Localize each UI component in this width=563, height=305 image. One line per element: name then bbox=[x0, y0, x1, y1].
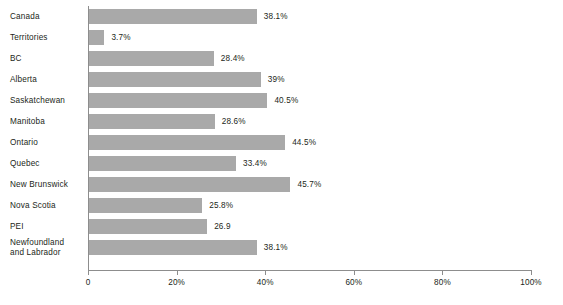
bar-row: Canada38.1% bbox=[0, 6, 563, 27]
x-axis-tick-label: 60% bbox=[345, 278, 362, 287]
bar-row: BC28.4% bbox=[0, 48, 563, 69]
bar bbox=[88, 156, 236, 171]
bar-track: 38.1% bbox=[88, 6, 531, 27]
bar-track: 26.9 bbox=[88, 216, 531, 237]
bar-row: Newfoundland and Labrador38.1% bbox=[0, 237, 563, 258]
bar-row: Nova Scotia25.8% bbox=[0, 195, 563, 216]
x-axis-tick-label: 80% bbox=[434, 278, 451, 287]
category-label: Nova Scotia bbox=[10, 201, 86, 211]
bar-row: PEI26.9 bbox=[0, 216, 563, 237]
bar-row: Territories3.7% bbox=[0, 27, 563, 48]
category-label: Ontario bbox=[10, 138, 86, 148]
bar bbox=[88, 30, 104, 45]
x-axis-tick-label: 40% bbox=[257, 278, 274, 287]
x-axis-tick bbox=[442, 270, 443, 275]
bar bbox=[88, 9, 257, 24]
category-label: New Brunswick bbox=[10, 180, 86, 190]
bar-track: 45.7% bbox=[88, 174, 531, 195]
bar-track: 3.7% bbox=[88, 27, 531, 48]
y-axis-line bbox=[88, 6, 89, 271]
bar bbox=[88, 135, 285, 150]
bar-track: 25.8% bbox=[88, 195, 531, 216]
x-axis-tick-label: 100% bbox=[520, 278, 542, 287]
category-label: Quebec bbox=[10, 159, 86, 169]
bar bbox=[88, 198, 202, 213]
category-label: Canada bbox=[10, 12, 86, 22]
bar-row: Ontario44.5% bbox=[0, 132, 563, 153]
x-axis-tick bbox=[531, 270, 532, 275]
bar-value-label: 28.6% bbox=[222, 117, 246, 126]
bar-value-label: 33.4% bbox=[243, 159, 267, 168]
bar-value-label: 40.5% bbox=[274, 96, 298, 105]
category-label: Territories bbox=[10, 33, 86, 43]
bar-value-label: 28.4% bbox=[221, 54, 245, 63]
bar-value-label: 25.8% bbox=[209, 201, 233, 210]
bar-rows-container: Canada38.1%Territories3.7%BC28.4%Alberta… bbox=[0, 6, 563, 258]
bar-track: 28.6% bbox=[88, 111, 531, 132]
x-axis-tick-label: 0 bbox=[86, 278, 91, 287]
bar-track: 39% bbox=[88, 69, 531, 90]
bar-track: 33.4% bbox=[88, 153, 531, 174]
category-label: PEI bbox=[10, 222, 86, 232]
bar-row: Quebec33.4% bbox=[0, 153, 563, 174]
x-axis-tick bbox=[354, 270, 355, 275]
bar-row: Manitoba28.6% bbox=[0, 111, 563, 132]
bar bbox=[88, 93, 267, 108]
bar-value-label: 3.7% bbox=[111, 33, 130, 42]
bar-track: 38.1% bbox=[88, 237, 531, 258]
x-axis-tick bbox=[265, 270, 266, 275]
bar-track: 28.4% bbox=[88, 48, 531, 69]
bar bbox=[88, 72, 261, 87]
bar bbox=[88, 114, 215, 129]
bar-row: Saskatchewan40.5% bbox=[0, 90, 563, 111]
bar-value-label: 44.5% bbox=[292, 138, 316, 147]
category-label: Alberta bbox=[10, 75, 86, 85]
category-label: Newfoundland and Labrador bbox=[10, 238, 86, 258]
bar-track: 40.5% bbox=[88, 90, 531, 111]
bar bbox=[88, 51, 214, 66]
bar-row: New Brunswick45.7% bbox=[0, 174, 563, 195]
x-axis-tick bbox=[88, 270, 89, 275]
bar-value-label: 39% bbox=[268, 75, 285, 84]
bar bbox=[88, 240, 257, 255]
bar bbox=[88, 177, 290, 192]
bar-chart: Canada38.1%Territories3.7%BC28.4%Alberta… bbox=[0, 0, 563, 305]
category-label: Saskatchewan bbox=[10, 96, 86, 106]
category-label: Manitoba bbox=[10, 117, 86, 127]
bar-value-label: 26.9 bbox=[214, 222, 231, 231]
bar bbox=[88, 219, 207, 234]
x-axis: 020%40%60%80%100% bbox=[88, 270, 531, 271]
bar-row: Alberta39% bbox=[0, 69, 563, 90]
bar-value-label: 45.7% bbox=[297, 180, 321, 189]
x-axis-tick-label: 20% bbox=[168, 278, 185, 287]
category-label: BC bbox=[10, 54, 86, 64]
bar-value-label: 38.1% bbox=[264, 243, 288, 252]
bar-track: 44.5% bbox=[88, 132, 531, 153]
x-axis-tick bbox=[177, 270, 178, 275]
bar-value-label: 38.1% bbox=[264, 12, 288, 21]
